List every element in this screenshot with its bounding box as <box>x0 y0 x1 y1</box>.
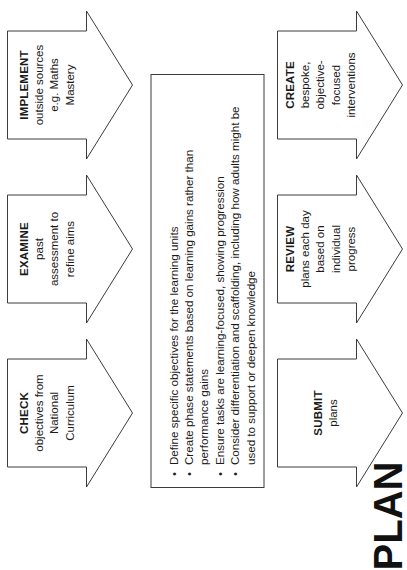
arrow-review-line-1: plans each day <box>297 184 312 314</box>
arrow-check-title: CHECK <box>16 348 31 478</box>
center-bullet-panel: Define specific objectives for the learn… <box>150 74 264 488</box>
arrow-review-title: REVIEW <box>282 184 297 314</box>
arrow-examine-title: EXAMINE <box>16 184 31 314</box>
arrow-check[interactable]: CHECK objectives from National Curriculu… <box>6 338 134 488</box>
arrow-create-line-3: focused <box>328 20 343 150</box>
bullet-list: Define specific objectives for the learn… <box>165 75 263 487</box>
arrow-check-line-1: objectives from <box>31 348 46 478</box>
bullet-item: Ensure tasks are learning-focused, showi… <box>211 87 226 465</box>
arrow-examine[interactable]: EXAMINE past assessment to refine aims <box>6 174 134 324</box>
acronym-letter-p: P <box>367 544 407 570</box>
bullet-item: Create phase statements based on learnin… <box>180 87 211 465</box>
arrow-submit-title: SUBMIT <box>310 348 325 478</box>
arrow-create-label: CREATE bespoke, objective- focused inter… <box>282 10 358 160</box>
arrow-implement-line-2: e.g. Maths <box>46 20 61 150</box>
arrow-examine-label: EXAMINE past assessment to refine aims <box>16 174 77 324</box>
arrow-create-line-2: objective- <box>312 20 327 150</box>
arrow-review-line-2: based on <box>312 184 327 314</box>
arrow-implement[interactable]: IMPLEMENT outside sources e.g. Maths Mas… <box>6 10 134 160</box>
bullet-item: Define specific objectives for the learn… <box>165 87 180 465</box>
arrow-create-title: CREATE <box>282 20 297 150</box>
arrow-implement-line-1: outside sources <box>31 20 46 150</box>
plan-acronym: P L A N <box>0 486 407 546</box>
bullet-item: Consider differentiation and scaffolding… <box>226 87 257 465</box>
arrow-submit-label: SUBMIT plans <box>310 338 340 488</box>
arrow-review-line-4: progress <box>343 184 358 314</box>
acronym-letter-a: A <box>367 490 407 519</box>
arrow-submit[interactable]: SUBMIT plans <box>276 338 404 488</box>
acronym-letter-l: L <box>367 519 407 543</box>
arrow-submit-line-1: plans <box>325 348 340 478</box>
arrow-implement-title: IMPLEMENT <box>16 20 31 150</box>
arrow-review-line-3: individual <box>328 184 343 314</box>
arrow-implement-line-3: Mastery <box>62 20 77 150</box>
arrow-implement-label: IMPLEMENT outside sources e.g. Maths Mas… <box>16 10 77 160</box>
arrow-examine-line-3: refine aims <box>62 184 77 314</box>
arrow-check-line-3: Curriculum <box>62 348 77 478</box>
arrow-create-line-1: bespoke, <box>297 20 312 150</box>
arrow-review[interactable]: REVIEW plans each day based on individua… <box>276 174 404 324</box>
diagram-board: CHECK objectives from National Curriculu… <box>0 0 407 492</box>
arrow-examine-line-2: assessment to <box>46 184 61 314</box>
arrow-create-line-4: interventions <box>343 20 358 150</box>
arrow-examine-line-1: past <box>31 184 46 314</box>
arrow-check-line-2: National <box>46 348 61 478</box>
arrow-create[interactable]: CREATE bespoke, objective- focused inter… <box>276 10 404 160</box>
arrow-review-label: REVIEW plans each day based on individua… <box>282 174 358 324</box>
arrow-check-label: CHECK objectives from National Curriculu… <box>16 338 77 488</box>
